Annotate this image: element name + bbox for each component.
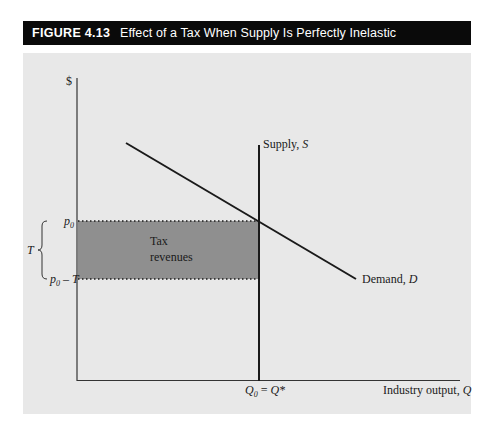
tax-bracket-icon — [38, 221, 47, 279]
tax-revenue-label-line1: Tax — [150, 234, 168, 248]
y-axis-label: $ — [66, 74, 72, 88]
p0-label: p0 — [63, 214, 74, 230]
x-axis-label: Industry output, Q — [383, 383, 472, 397]
tax-revenue-label-line2: revenues — [150, 250, 193, 264]
demand-label: Demand, D — [362, 272, 418, 286]
p0-minus-t-label: p0 – T — [49, 272, 80, 288]
quantity-label: Q0 = Q* — [245, 383, 285, 399]
tax-bracket-label: T — [27, 243, 35, 257]
supply-label: Supply, S — [263, 137, 308, 151]
chart-svg: $ Supply, S Demand, D p0 p0 – T T Tax re… — [0, 0, 492, 436]
